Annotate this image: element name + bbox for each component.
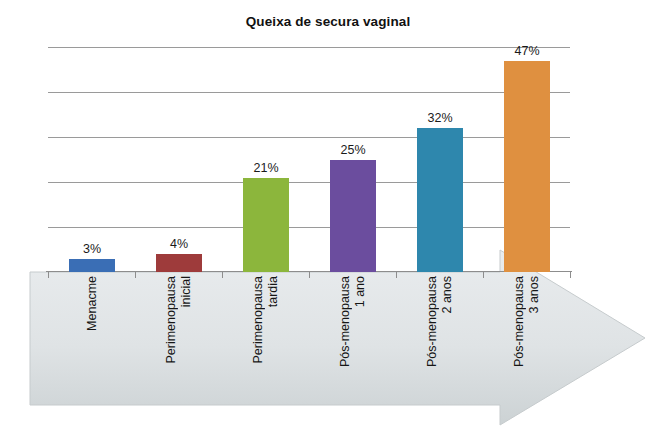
chart-container: Queixa de secura vaginal 3% 4% 21% 25% bbox=[0, 0, 656, 438]
bar-group: 32% bbox=[417, 40, 463, 272]
category-label-line: Pós-menopausa bbox=[512, 276, 527, 367]
bar-group: 3% bbox=[69, 40, 115, 272]
bar-rect[interactable] bbox=[69, 259, 115, 273]
bar-value-label: 4% bbox=[156, 237, 202, 251]
category-label-line: Pós-menopausa bbox=[425, 276, 440, 367]
category-label-2: Perimenopausatardia bbox=[243, 276, 289, 426]
category-axis-labels: Menacme Perimenopausainicial Perimenopau… bbox=[48, 276, 570, 426]
bar-rect[interactable] bbox=[330, 160, 376, 273]
bar-rect[interactable] bbox=[156, 254, 202, 272]
axis-tick bbox=[570, 272, 571, 278]
category-label-3: Pós-menopausa1 ano bbox=[330, 276, 376, 426]
category-label-line: Perimenopausa bbox=[251, 276, 266, 364]
bar-value-label: 25% bbox=[330, 143, 376, 157]
bar-group: 47% bbox=[504, 40, 550, 272]
bars-layer: 3% 4% 21% 25% 32% 47% bbox=[48, 40, 570, 272]
category-label-line: Menacme bbox=[85, 276, 100, 331]
category-label-line: Pós-menopausa bbox=[338, 276, 353, 367]
bar-value-label: 3% bbox=[69, 242, 115, 256]
bar-rect[interactable] bbox=[417, 128, 463, 272]
category-label-4: Pós-menopausa2 anos bbox=[417, 276, 463, 426]
bar-value-label: 21% bbox=[243, 161, 289, 175]
chart-title: Queixa de secura vaginal bbox=[0, 14, 656, 29]
bar-value-label: 32% bbox=[417, 111, 463, 125]
category-label-line: inicial bbox=[179, 276, 194, 307]
bar-group: 25% bbox=[330, 40, 376, 272]
bar-group: 21% bbox=[243, 40, 289, 272]
category-label-line: Perimenopausa bbox=[164, 276, 179, 364]
category-label-5: Pós-menopausa3 anos bbox=[504, 276, 550, 426]
bar-value-label: 47% bbox=[504, 44, 550, 58]
category-label-line: 3 anos bbox=[527, 276, 542, 314]
category-label-line: tardia bbox=[266, 276, 281, 307]
category-label-0: Menacme bbox=[69, 276, 115, 426]
category-label-1: Perimenopausainicial bbox=[156, 276, 202, 426]
bar-group: 4% bbox=[156, 40, 202, 272]
bar-rect[interactable] bbox=[504, 61, 550, 273]
category-label-line: 1 ano bbox=[353, 276, 368, 307]
category-label-line: 2 anos bbox=[440, 276, 455, 314]
bar-rect[interactable] bbox=[243, 178, 289, 273]
